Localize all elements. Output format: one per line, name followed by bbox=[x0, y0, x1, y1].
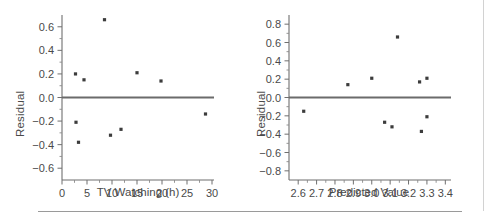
y-tick-label: −0.2 bbox=[32, 115, 54, 127]
residual-vs-tv-watching-chart: Residual −0.6−0.4−0.20.00.20.40.60510152… bbox=[0, 0, 243, 223]
y-tick-label: −0.6 bbox=[32, 162, 54, 174]
y-tick-label: −0.8 bbox=[259, 165, 281, 177]
plot-area-right: −0.8−0.6−0.4−0.20.00.20.40.60.82.62.72.8… bbox=[243, 0, 485, 200]
x-axis-label-right: Predicted Value bbox=[289, 186, 449, 198]
data-point bbox=[346, 83, 349, 86]
data-point bbox=[103, 18, 106, 21]
data-point bbox=[420, 130, 423, 133]
data-point bbox=[77, 141, 80, 144]
right-edge-rule bbox=[483, 0, 484, 211]
y-tick-label: 0.0 bbox=[39, 92, 54, 104]
residual-plots-figure: Residual −0.6−0.4−0.20.00.20.40.60510152… bbox=[0, 0, 485, 223]
y-tick-label: 0.4 bbox=[39, 44, 54, 56]
data-point bbox=[370, 77, 373, 80]
data-point bbox=[383, 121, 386, 124]
y-tick-label: 0.4 bbox=[266, 55, 281, 67]
y-tick-label: −0.2 bbox=[259, 110, 281, 122]
data-point bbox=[109, 134, 112, 137]
data-point bbox=[425, 115, 428, 118]
y-tick-label: 0.6 bbox=[266, 37, 281, 49]
data-point bbox=[159, 79, 162, 82]
y-tick-label: 0.8 bbox=[266, 18, 281, 30]
data-point bbox=[425, 77, 428, 80]
data-point bbox=[135, 71, 138, 74]
data-point bbox=[390, 125, 393, 128]
data-point bbox=[119, 128, 122, 131]
data-point bbox=[74, 72, 77, 75]
y-tick-label: 0.2 bbox=[39, 68, 54, 80]
data-point bbox=[302, 110, 305, 113]
data-point bbox=[74, 121, 77, 124]
data-point bbox=[418, 80, 421, 83]
plot-area-left: −0.6−0.4−0.20.00.20.40.6051015202530 bbox=[0, 0, 243, 200]
data-point bbox=[82, 78, 85, 81]
residual-vs-predicted-value-chart: Residual −0.8−0.6−0.4−0.20.00.20.40.60.8… bbox=[243, 0, 485, 223]
y-tick-label: −0.4 bbox=[259, 128, 281, 140]
y-tick-label: −0.4 bbox=[32, 139, 54, 151]
y-tick-label: 0.0 bbox=[266, 92, 281, 104]
data-point bbox=[396, 35, 399, 38]
x-axis-label-left: TV Watching (h) bbox=[62, 186, 214, 198]
data-point bbox=[204, 112, 207, 115]
y-tick-label: 0.6 bbox=[39, 21, 54, 33]
footer-divider bbox=[38, 211, 462, 212]
y-tick-label: 0.2 bbox=[266, 73, 281, 85]
y-tick-label: −0.6 bbox=[259, 147, 281, 159]
